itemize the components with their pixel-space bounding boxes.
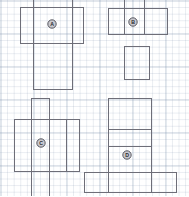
net-d-bottom-face (109, 173, 152, 193)
net-d-right-strip (152, 173, 177, 193)
net-b-right-face (145, 9, 168, 35)
net-a-marker-letter: A (50, 21, 54, 27)
net-b-top-face (125, 0, 145, 9)
net-c-bottom-face (32, 172, 50, 197)
nets-root: ABCD (15, 0, 177, 196)
diagram-canvas: ABCD Polyomino net diagrams on graph pap… (0, 0, 189, 196)
net-c-marker-letter: C (39, 140, 43, 146)
net-d-top-face (109, 99, 152, 130)
net-c: C (15, 99, 80, 197)
net-b-bottom-face (125, 47, 150, 80)
net-c-left-face (15, 120, 32, 172)
net-c-top-face (32, 99, 50, 120)
net-d: D (85, 99, 177, 193)
net-a-bottom-face (34, 44, 73, 90)
net-a-label-marker: A (48, 20, 56, 28)
net-b-marker-letter: B (131, 19, 135, 25)
net-a-left-face (21, 8, 34, 44)
net-a: A (21, 0, 84, 90)
net-a-right-face (73, 8, 84, 44)
net-d-left-strip (85, 173, 109, 193)
net-b: B (109, 0, 168, 80)
net-d-middle-face (109, 130, 152, 147)
net-b-left-face (109, 9, 125, 35)
net-d-label-marker: D (123, 151, 131, 159)
net-d-marker-letter: D (125, 152, 129, 158)
net-shapes-layer: ABCD (0, 0, 189, 196)
net-b-label-marker: B (129, 18, 137, 26)
net-c-far-face (67, 120, 80, 172)
net-d-center-face (109, 147, 152, 173)
nets-svg: ABCD (0, 0, 189, 196)
net-a-top-face (34, 0, 73, 8)
net-c-right-face (50, 120, 67, 172)
net-c-label-marker: C (37, 139, 45, 147)
